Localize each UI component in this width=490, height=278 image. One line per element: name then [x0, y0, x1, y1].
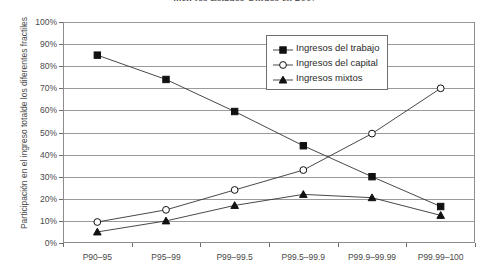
y-tick-label: 100% — [0, 18, 57, 27]
y-tick-label: 0% — [0, 239, 57, 248]
y-tick-mark — [59, 88, 63, 89]
legend-label: Ingresos del trabajo — [294, 42, 379, 53]
y-tick-label: 10% — [0, 217, 57, 226]
y-tick-label: 40% — [0, 151, 57, 160]
x-tick-mark — [63, 243, 64, 247]
legend-item[interactable]: Ingresos del capital — [272, 55, 379, 70]
chart-legend: Ingresos del trabajoIngresos del capital… — [266, 35, 388, 90]
x-tick-mark — [406, 243, 407, 247]
y-tick-mark — [59, 22, 63, 23]
gridline — [64, 221, 474, 222]
gridline — [64, 110, 474, 111]
legend-marker-filled-triangle-icon — [272, 72, 294, 84]
y-tick-label: 60% — [0, 106, 57, 115]
y-tick-label: 20% — [0, 195, 57, 204]
x-tick-mark — [338, 243, 339, 247]
gridline — [64, 199, 474, 200]
chart-title: ...en los Estados Unidos en 2007 — [0, 0, 490, 4]
y-tick-mark — [59, 44, 63, 45]
legend-item[interactable]: Ingresos del trabajo — [272, 40, 379, 55]
gridline — [64, 155, 474, 156]
x-tick-mark — [269, 243, 270, 247]
legend-marker-open-circle-icon — [272, 57, 294, 69]
y-axis-title: Participación en el ingreso totalde los … — [19, 3, 29, 243]
x-tick-mark — [132, 243, 133, 247]
y-tick-label: 80% — [0, 62, 57, 71]
y-tick-label: 50% — [0, 129, 57, 138]
y-tick-mark — [59, 221, 63, 222]
legend-label: Ingresos mixtos — [294, 72, 363, 83]
y-tick-mark — [59, 155, 63, 156]
gridline — [64, 133, 474, 134]
x-tick-label: P99.99–100 — [396, 253, 486, 262]
gridline — [64, 177, 474, 178]
legend-item[interactable]: Ingresos mixtos — [272, 70, 379, 85]
x-tick-mark — [475, 243, 476, 247]
y-tick-mark — [59, 110, 63, 111]
legend-label: Ingresos del capital — [294, 57, 378, 68]
x-tick-mark — [200, 243, 201, 247]
y-tick-label: 70% — [0, 84, 57, 93]
chart-figure: ...en los Estados Unidos en 2007 Partici… — [0, 0, 490, 278]
y-tick-mark — [59, 199, 63, 200]
y-tick-mark — [59, 66, 63, 67]
gridline — [64, 22, 474, 23]
y-tick-mark — [59, 177, 63, 178]
legend-marker-filled-square-icon — [272, 42, 294, 54]
y-tick-label: 30% — [0, 173, 57, 182]
y-tick-mark — [59, 133, 63, 134]
y-tick-label: 90% — [0, 40, 57, 49]
